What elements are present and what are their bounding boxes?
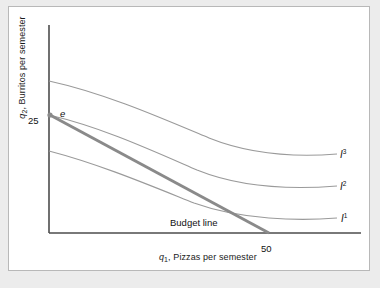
curve-i3-superscript: 3 [343,148,347,155]
budget-line-label: Budget line [170,217,218,228]
point-e-marker [47,112,52,117]
curve-label-i1: I1 [341,212,347,224]
x-axis-tick-50: 50 [261,243,272,254]
curve-i3 [49,81,337,155]
y-axis-subscript: 2 [21,110,28,114]
curve-label-i2: I2 [340,180,346,192]
budget-line [50,115,269,233]
figure-panel: q2, Burritos per semester q1, Pizzas per… [8,6,370,271]
curve-i1-superscript: 1 [344,212,348,219]
y-axis-label-text: , Burritos per semester [17,16,27,109]
curve-i2 [49,115,337,187]
y-axis-label: q2, Burritos per semester [17,3,28,133]
y-axis-tick-25: 25 [28,115,39,126]
x-axis-label: q1, Pizzas per semester [159,252,257,263]
curve-label-i3: I3 [340,148,346,160]
curve-i1 [49,151,337,219]
x-axis-label-text: , Pizzas per semester [168,252,257,262]
point-e-label: e [60,108,65,119]
y-axis-var: q [17,114,27,119]
curve-i2-superscript: 2 [343,180,347,187]
chart-plot-area [9,7,371,272]
